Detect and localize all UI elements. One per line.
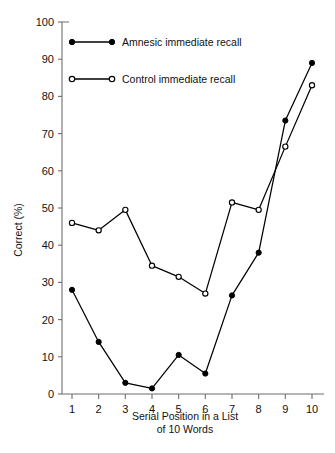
data-point-marker (123, 380, 128, 385)
y-tick-label: 50 (42, 202, 54, 214)
data-point-marker (96, 228, 101, 233)
legend-marker-filled-circle (69, 39, 74, 44)
y-tick-label: 70 (42, 128, 54, 140)
legend-label: Amnesic immediate recall (122, 36, 242, 48)
y-tick-label: 30 (42, 276, 54, 288)
chart-container: 010203040506070809010012345678910 Amnesi… (0, 0, 335, 453)
y-tick-label: 80 (42, 90, 54, 102)
y-tick-label: 100 (36, 16, 54, 28)
legend-marker-open-circle (69, 76, 74, 81)
series-line-control (72, 85, 312, 293)
data-point-marker (283, 144, 288, 149)
legend-marker-open-circle (109, 76, 114, 81)
y-tick-label: 90 (42, 53, 54, 65)
x-tick-label: 1 (69, 403, 75, 415)
data-point-marker (229, 293, 234, 298)
x-axis-title-line1: Serial Position in a List (132, 410, 238, 422)
data-point-marker (256, 250, 261, 255)
data-point-marker (149, 263, 154, 268)
x-tick-label: 2 (96, 403, 102, 415)
data-point-marker (203, 291, 208, 296)
data-point-marker (229, 200, 234, 205)
data-point-marker (283, 118, 288, 123)
x-tick-label: 9 (282, 403, 288, 415)
x-tick-label: 8 (256, 403, 262, 415)
y-tick-label: 20 (42, 314, 54, 326)
data-point-marker (176, 352, 181, 357)
series-line-amnesic (72, 63, 312, 389)
legend-marker-filled-circle (109, 39, 114, 44)
data-point-marker (309, 83, 314, 88)
data-point-marker (149, 386, 154, 391)
data-point-marker (96, 339, 101, 344)
x-axis-title-line2: of 10 Words (157, 423, 213, 435)
data-point-marker (309, 60, 314, 65)
data-point-marker (203, 371, 208, 376)
data-point-marker (123, 207, 128, 212)
y-tick-label: 10 (42, 351, 54, 363)
x-tick-label: 3 (122, 403, 128, 415)
data-point-marker (176, 274, 181, 279)
y-tick-label: 60 (42, 165, 54, 177)
data-point-marker (256, 207, 261, 212)
x-tick-label: 10 (306, 403, 318, 415)
legend-label: Control immediate recall (122, 73, 235, 85)
chart-legend: Amnesic immediate recallControl immediat… (69, 36, 241, 85)
data-point-marker (69, 287, 74, 292)
serial-position-line-chart: 010203040506070809010012345678910 Amnesi… (0, 0, 335, 453)
y-tick-label: 0 (48, 388, 54, 400)
y-tick-label: 40 (42, 239, 54, 251)
y-axis-title: Correct (%) (12, 203, 24, 257)
data-series (69, 60, 314, 391)
data-point-marker (69, 220, 74, 225)
